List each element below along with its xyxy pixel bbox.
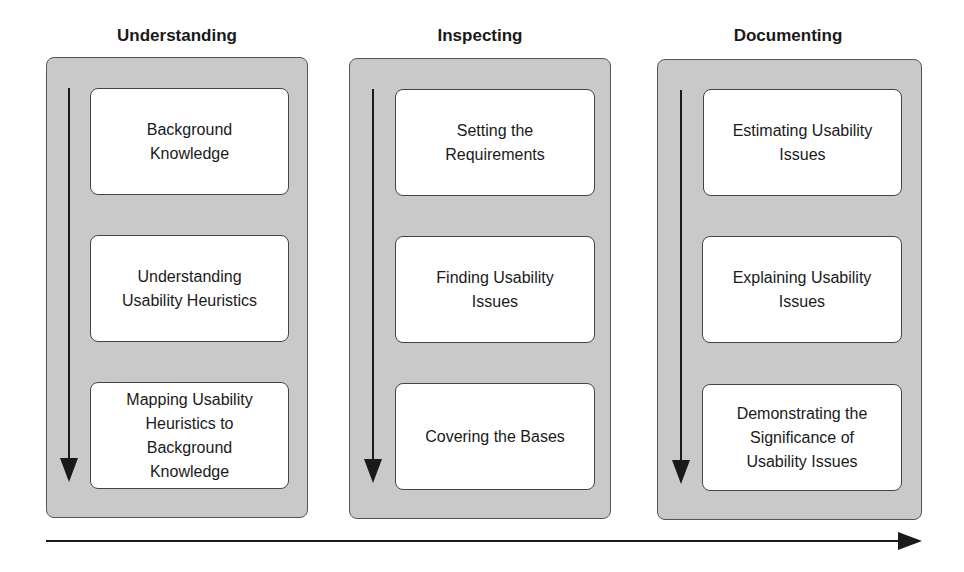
column-title-documenting: Documenting	[657, 26, 919, 46]
step-box-explaining-issues: Explaining Usability Issues	[702, 236, 902, 343]
vertical-arrow-line-understanding	[68, 88, 70, 466]
step-box-understanding-heuristics: Understanding Usability Heuristics	[90, 235, 289, 342]
horizontal-arrow-line	[46, 540, 906, 542]
step-box-estimating-issues: Estimating Usability Issues	[703, 89, 902, 196]
step-box-setting-requirements: Setting the Requirements	[395, 89, 595, 196]
column-title-understanding: Understanding	[46, 26, 308, 46]
step-box-demonstrating-significance: Demonstrating the Significance of Usabil…	[702, 384, 902, 491]
step-box-mapping-heuristics: Mapping Usability Heuristics to Backgrou…	[90, 382, 289, 489]
step-box-covering-bases: Covering the Bases	[395, 383, 595, 490]
down-arrow-icon	[672, 460, 690, 484]
down-arrow-icon	[60, 458, 78, 482]
column-title-inspecting: Inspecting	[349, 26, 611, 46]
vertical-arrow-line-documenting	[680, 90, 682, 468]
down-arrow-icon	[364, 459, 382, 483]
step-box-finding-issues: Finding Usability Issues	[395, 236, 595, 343]
right-arrow-icon	[898, 532, 922, 550]
vertical-arrow-line-inspecting	[372, 89, 374, 467]
step-box-background-knowledge: Background Knowledge	[90, 88, 289, 195]
